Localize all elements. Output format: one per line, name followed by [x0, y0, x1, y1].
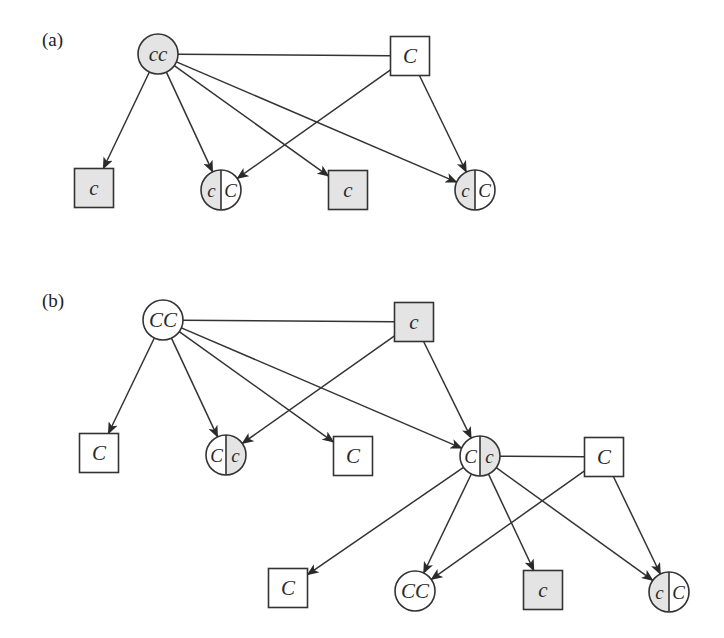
inheritance-arrow: [171, 338, 217, 437]
male-node-C: C: [585, 438, 624, 477]
male-node-c: c: [524, 571, 563, 610]
female-node-cC: cC: [455, 170, 495, 210]
allele-left: C: [464, 446, 477, 467]
allele-right: C: [672, 582, 685, 603]
inheritance-arrow: [419, 76, 466, 173]
female-node-CC: CC: [143, 300, 183, 340]
inheritance-arrow: [496, 468, 653, 581]
male-node-C: C: [269, 569, 308, 608]
pedigree-diagram: ccCccCccCCCcCCcCCcCCCCccC (a)(b): [0, 0, 724, 638]
genotype-label: C: [597, 445, 612, 469]
allele-left: c: [207, 180, 216, 201]
mating-line: [183, 320, 395, 322]
inheritance-arrow: [166, 72, 212, 172]
allele-right: C: [224, 180, 237, 201]
female-node-cc: cc: [138, 34, 178, 74]
allele-left: c: [655, 582, 664, 603]
male-node-C: C: [334, 437, 373, 476]
inheritance-arrow: [424, 474, 472, 573]
female-node-cC: cC: [649, 572, 689, 612]
inheritance-arrow: [179, 332, 333, 442]
female-node-Cc: Cc: [206, 435, 246, 475]
genotype-label: C: [92, 441, 107, 465]
genotype-label: C: [403, 44, 418, 68]
inheritance-arrow: [424, 342, 472, 439]
edges-layer: [103, 54, 660, 580]
male-node-c: c: [75, 169, 114, 208]
inheritance-arrow: [242, 336, 394, 444]
inheritance-arrow: [103, 72, 149, 168]
allele-left: c: [461, 180, 470, 201]
labels-layer: (a)(b): [42, 29, 64, 312]
inheritance-arrow: [308, 467, 464, 574]
allele-left: C: [210, 445, 223, 466]
panel-label: (b): [42, 290, 64, 312]
nodes-layer: ccCccCccCCCcCCcCCcCCCCccC: [75, 34, 690, 612]
inheritance-arrow: [431, 471, 584, 580]
panel-label: (a): [42, 29, 63, 51]
female-node-cC: cC: [201, 170, 241, 210]
male-node-C: C: [391, 37, 430, 76]
allele-right: c: [231, 445, 240, 466]
genotype-label: cc: [149, 42, 168, 66]
mating-line: [500, 456, 585, 457]
inheritance-arrow: [174, 66, 328, 176]
genotype-label: CC: [401, 579, 430, 603]
inheritance-arrow: [108, 338, 154, 433]
genotype-label: c: [538, 578, 548, 602]
allele-right: c: [485, 446, 494, 467]
genotype-label: CC: [149, 308, 178, 332]
genotype-label: c: [89, 176, 99, 200]
inheritance-arrow: [237, 70, 390, 179]
male-node-c: c: [329, 171, 368, 210]
inheritance-arrow: [613, 477, 660, 574]
male-node-c: c: [395, 303, 434, 342]
genotype-label: c: [409, 310, 419, 334]
female-node-Cc: Cc: [460, 436, 500, 476]
mating-line: [178, 54, 391, 56]
female-node-CC: CC: [395, 571, 435, 611]
genotype-label: c: [343, 178, 353, 202]
genotype-label: C: [346, 444, 361, 468]
male-node-C: C: [80, 434, 119, 473]
allele-right: C: [478, 180, 491, 201]
genotype-label: C: [281, 576, 296, 600]
